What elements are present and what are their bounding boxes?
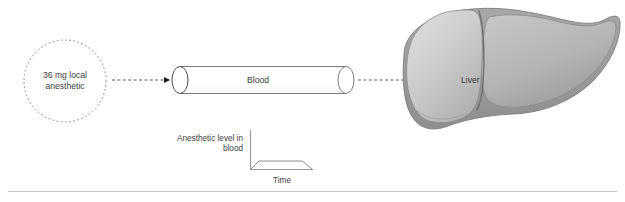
liver-right-lobe	[482, 15, 616, 108]
liver-illustration: Liver	[403, 8, 620, 129]
chart-y-label-line2: blood	[223, 144, 243, 153]
diagram-canvas: 36 mg local anesthetic Blood Live	[0, 0, 625, 202]
chart-x-label: Time	[273, 176, 291, 185]
chart-y-label-line1: Anesthetic level in	[177, 134, 243, 143]
blood-vessel: Blood	[172, 67, 354, 94]
connector-dose-to-blood	[112, 77, 170, 83]
arrow-head-into-vessel	[164, 77, 170, 83]
liver-left-lobe	[407, 10, 483, 123]
dose-label-line2: anesthetic	[45, 81, 85, 91]
vessel-label: Blood	[247, 75, 269, 85]
vessel-left-cap	[172, 67, 188, 94]
anesthetic-level-chart: Anesthetic level in blood Time	[177, 130, 313, 185]
dose-node: 36 mg local anesthetic	[24, 40, 106, 122]
chart-curve-trapezoid	[251, 161, 312, 169]
vessel-right-cap	[338, 67, 354, 94]
dose-label-line1: 36 mg local	[43, 70, 87, 80]
liver-label: Liver	[461, 75, 480, 85]
